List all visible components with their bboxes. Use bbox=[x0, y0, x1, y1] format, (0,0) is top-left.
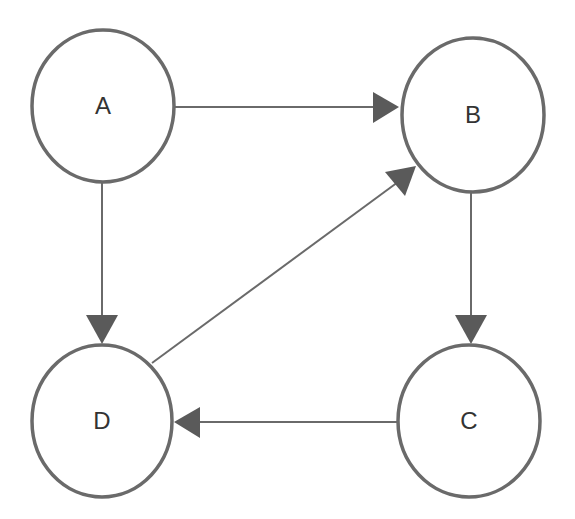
node-c-label: C bbox=[460, 407, 477, 434]
edge-b-to-c bbox=[455, 192, 487, 344]
arrowhead-icon bbox=[86, 315, 118, 344]
arrowhead-icon bbox=[385, 166, 416, 196]
node-b[interactable]: B bbox=[402, 38, 544, 192]
edge-a-to-d bbox=[86, 183, 118, 344]
node-d-label: D bbox=[93, 407, 110, 434]
node-b-label: B bbox=[465, 101, 481, 128]
edge-d-to-b bbox=[152, 166, 416, 363]
edge-c-to-d bbox=[174, 407, 398, 438]
node-a[interactable]: A bbox=[32, 30, 174, 182]
arrowhead-icon bbox=[373, 92, 399, 123]
node-c[interactable]: C bbox=[398, 345, 540, 497]
arrowhead-icon bbox=[455, 315, 487, 344]
node-d[interactable]: D bbox=[32, 345, 172, 497]
graph-canvas: A B C D bbox=[0, 0, 575, 519]
arrowhead-icon bbox=[174, 407, 200, 438]
node-a-label: A bbox=[95, 92, 111, 119]
edge-a-to-b bbox=[175, 92, 399, 123]
